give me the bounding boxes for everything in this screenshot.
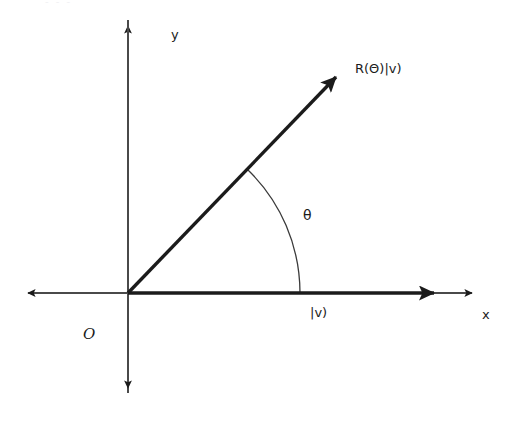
rotated-state-vector-arrow xyxy=(128,77,336,293)
rotation-vector-diagram: - - - y x O R(Θ)|v) |v) θ xyxy=(0,0,520,430)
x-axis-label: x xyxy=(482,308,490,321)
diagram-canvas xyxy=(0,0,520,430)
rotated-state-vector-label: R(Θ)|v) xyxy=(355,62,402,75)
input-state-vector-label: |v) xyxy=(310,306,327,319)
theta-angle-label: θ xyxy=(303,208,312,222)
y-axis-label: y xyxy=(171,28,179,41)
theta-arc xyxy=(247,169,300,293)
origin-label: O xyxy=(83,327,95,342)
